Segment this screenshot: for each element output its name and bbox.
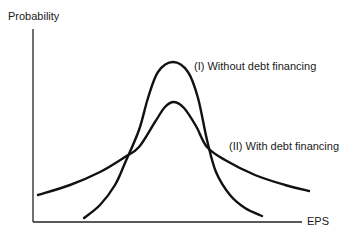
curve-with-debt bbox=[38, 102, 309, 195]
chart-plot bbox=[0, 0, 356, 236]
curve-without-debt bbox=[84, 62, 262, 218]
